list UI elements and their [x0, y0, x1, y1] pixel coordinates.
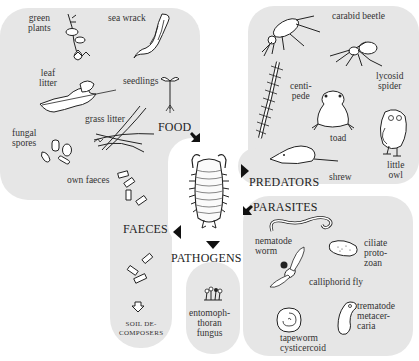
trematode-metacercaria-icon [336, 300, 360, 338]
entomophthoran-fungus-icon [202, 286, 224, 302]
fungal-spores-icon [40, 138, 75, 168]
calliphorid-fly-icon [268, 245, 308, 290]
label-centipede: centi- pede [290, 81, 312, 101]
heading-predators: PREDATORS [249, 175, 319, 190]
label-lycosid-spider: lycosid spider [376, 71, 403, 91]
seedlings-icon [160, 75, 180, 115]
label-little-owl: little owl [387, 160, 404, 180]
tapeworm-cysticercoid-icon [274, 305, 304, 335]
label-seedlings: seedlings [123, 76, 158, 86]
label-entomophthoran-fungus: entomoph- thoran fungus [189, 308, 230, 338]
label-shrew: shrew [329, 172, 352, 182]
label-tapeworm-cysticercoid: tapeworm cysticercoid [280, 333, 326, 353]
label-fungal-spores: fungal spores [12, 128, 36, 148]
heading-food: FOOD [158, 120, 191, 135]
label-green-plants: green plants [28, 13, 51, 33]
heading-pathogens: PATHOGENS [171, 251, 242, 266]
lycosid-spider-icon [326, 38, 386, 68]
heading-parasites: PARASITES [253, 200, 318, 215]
sea-wrack-icon [130, 12, 175, 62]
nematode-worm-icon [268, 215, 338, 235]
centipede-icon [254, 60, 284, 140]
toad-icon [310, 88, 356, 134]
label-soil-decomposers: SOIL DE- COMPOSERS [119, 320, 163, 338]
shrew-icon [268, 143, 340, 168]
label-carabid-beetle: carabid beetle [332, 11, 385, 21]
label-toad: toad [330, 133, 346, 143]
arrow-to-faeces [172, 224, 182, 240]
green-plants-icon [60, 12, 105, 62]
little-owl-icon [375, 108, 409, 158]
ciliate-protozoan-icon [328, 238, 360, 258]
carabid-beetle-icon [258, 10, 328, 58]
down-arrow-outline-icon [131, 301, 145, 313]
arrow-food-to-woodlouse [188, 131, 202, 145]
woodlouse-icon[interactable] [186, 150, 232, 232]
label-trematode-metacercaria: trematode metacer- caria [357, 301, 395, 331]
arrow-to-pathogens [205, 240, 221, 250]
label-calliphorid-fly: calliphorid fly [309, 277, 363, 287]
arrow-to-parasites [240, 203, 254, 217]
heading-faeces: FAECES [123, 222, 168, 237]
label-ciliate-protozoan: ciliate proto- zoan [364, 238, 387, 268]
label-own-faeces: own faeces [67, 175, 109, 185]
grass-litter-icon [92, 104, 157, 154]
